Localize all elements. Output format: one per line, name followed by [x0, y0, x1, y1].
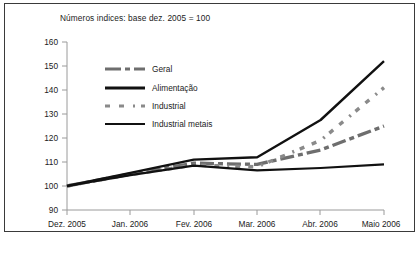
legend-label-industrial-metais: Industrial metais: [152, 119, 212, 129]
y-tick-label-150: 150: [44, 61, 58, 71]
x-tick-label-maio-2006: Maio 2006: [362, 219, 401, 229]
y-tick-label-160: 160: [44, 37, 58, 47]
y-axis-ticks: [62, 42, 67, 210]
x-tick-label-mar-2006: Mar. 2006: [239, 219, 276, 229]
x-tick-label-dez-2005: Dez. 2005: [48, 219, 86, 229]
x-axis-ticks: [67, 210, 384, 215]
line-chart-plot: 160 150 140 130 120 110 100 90 Dez. 2005…: [0, 0, 420, 253]
x-tick-label-jan-2006: Jan. 2006: [112, 219, 149, 229]
y-tick-label-140: 140: [44, 85, 58, 95]
series-line-industrial: [67, 88, 384, 186]
legend-label-geral: Geral: [152, 64, 172, 74]
y-tick-label-90: 90: [49, 205, 59, 215]
chart-figure: Números indices: base dez. 2005 = 100: [0, 0, 420, 253]
y-tick-label-110: 110: [45, 157, 59, 167]
y-tick-label-130: 130: [44, 109, 58, 119]
legend-label-industrial: Industrial: [152, 101, 186, 111]
x-tick-label-fev-2006: Fev. 2006: [176, 219, 213, 229]
legend-label-alimentacao: Alimentação: [152, 83, 198, 93]
y-tick-label-100: 100: [44, 181, 58, 191]
y-tick-label-120: 120: [44, 133, 58, 143]
chart-legend: Geral Alimentação Industrial Industrial …: [105, 64, 212, 129]
x-tick-label-abr-2006: Abr. 2006: [302, 219, 338, 229]
